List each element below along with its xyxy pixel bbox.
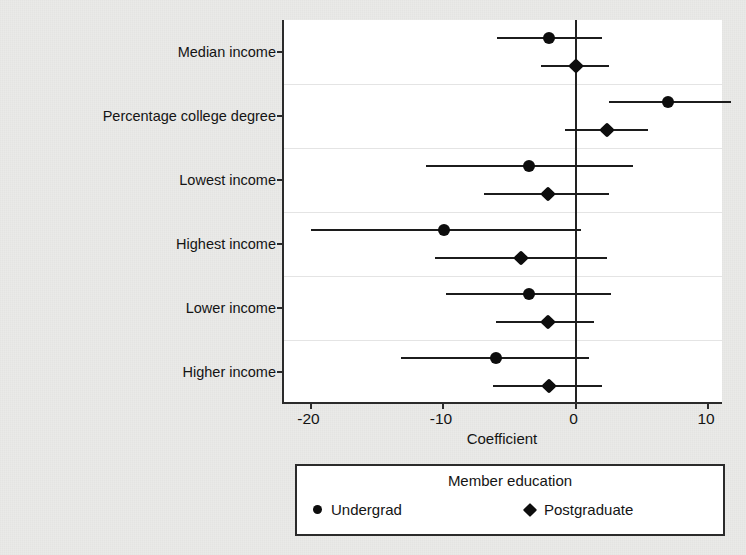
plot-area xyxy=(282,20,722,404)
row-separator xyxy=(284,84,722,85)
y-axis-tick xyxy=(277,51,284,53)
y-axis-tick-label: Lower income xyxy=(186,300,276,316)
x-axis-tick-label: 0 xyxy=(569,410,578,428)
y-axis-tick-label: Highest income xyxy=(176,236,276,252)
diamond-marker-icon xyxy=(568,58,584,74)
x-axis-tick-label: -20 xyxy=(297,410,319,428)
row-separator xyxy=(284,276,722,277)
y-axis-tick-label: Percentage college degree xyxy=(103,108,276,124)
x-axis-tick xyxy=(575,402,577,409)
circle-marker-icon xyxy=(662,96,674,108)
x-axis-tick xyxy=(707,402,709,409)
row-separator xyxy=(284,212,722,213)
diamond-marker-icon xyxy=(540,314,556,330)
circle-marker-icon xyxy=(523,160,535,172)
diamond-marker-icon xyxy=(600,122,616,138)
x-axis-tick-label: 10 xyxy=(697,410,714,428)
y-axis-tick xyxy=(277,115,284,117)
y-axis-tick-label: Lowest income xyxy=(179,172,276,188)
x-axis-tick xyxy=(442,402,444,409)
x-axis-tick xyxy=(310,402,312,409)
circle-marker-icon xyxy=(313,505,322,514)
circle-marker-icon xyxy=(490,352,502,364)
y-axis-tick xyxy=(277,179,284,181)
legend-label-postgraduate: Postgraduate xyxy=(544,501,633,518)
zero-reference-line xyxy=(575,20,577,402)
circle-marker-icon xyxy=(543,32,555,44)
y-axis-tick-label: Higher income xyxy=(183,364,277,380)
legend-title: Member education xyxy=(297,472,723,489)
x-axis-title: Coefficient xyxy=(282,430,722,447)
diamond-marker-icon xyxy=(541,378,557,394)
y-axis-tick xyxy=(277,243,284,245)
legend-entry-undergrad: Undergrad xyxy=(313,501,402,518)
row-separator xyxy=(284,340,722,341)
y-axis-tick-label: Median income xyxy=(178,44,276,60)
y-axis-tick xyxy=(277,307,284,309)
x-axis-tick-label: -10 xyxy=(430,410,452,428)
circle-marker-icon xyxy=(438,224,450,236)
legend-entry-postgraduate: Postgraduate xyxy=(525,501,633,518)
circle-marker-icon xyxy=(523,288,535,300)
diamond-marker-icon xyxy=(523,502,537,516)
y-axis-title: Constituent attributes xyxy=(0,0,28,555)
diamond-marker-icon xyxy=(540,186,556,202)
diamond-marker-icon xyxy=(513,250,529,266)
row-separator xyxy=(284,148,722,149)
coefficient-plot-figure: Constituent attributes Median incomePerc… xyxy=(0,0,746,555)
y-axis-tick xyxy=(277,371,284,373)
legend: Member education Undergrad Postgraduate xyxy=(295,464,725,536)
legend-label-undergrad: Undergrad xyxy=(331,501,402,518)
